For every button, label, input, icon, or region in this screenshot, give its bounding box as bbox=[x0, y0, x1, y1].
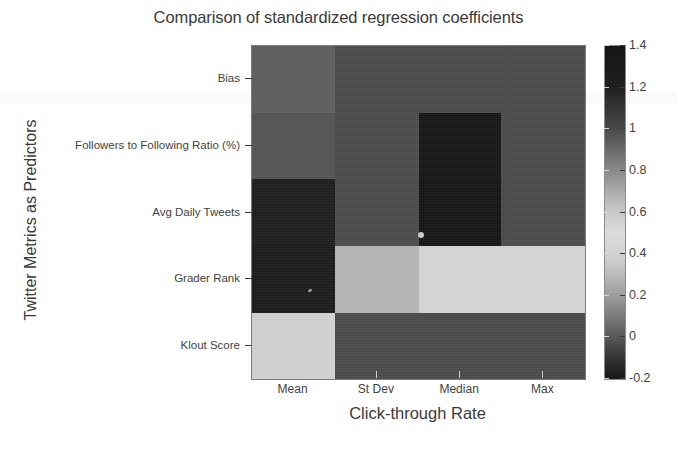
colorbar-tick-label: 1 bbox=[629, 121, 636, 135]
colorbar bbox=[604, 45, 626, 380]
x-tick-label: St Dev bbox=[358, 382, 394, 396]
colorbar-tick-mark bbox=[604, 45, 609, 46]
heatmap-cell bbox=[252, 113, 335, 179]
colorbar-tick-label: 0 bbox=[629, 329, 636, 343]
x-tick-mark bbox=[542, 371, 543, 378]
colorbar-tick-mark bbox=[620, 378, 625, 379]
heatmap-cell bbox=[252, 313, 335, 379]
colorbar-tick-mark bbox=[620, 212, 625, 213]
colorbar-tick-mark bbox=[620, 336, 625, 337]
colorbar-tick-mark bbox=[604, 378, 609, 379]
heatmap-cell bbox=[252, 46, 335, 113]
heatmap-cell bbox=[335, 46, 419, 113]
colorbar-tick-mark bbox=[604, 212, 609, 213]
colorbar-tick-label: 1.4 bbox=[629, 38, 646, 52]
heatmap-cell bbox=[419, 113, 501, 179]
y-tick-mark bbox=[245, 78, 252, 79]
chart-title: Comparison of standardized regression co… bbox=[0, 8, 677, 27]
y-axis-title: Twitter Metrics as Predictors bbox=[22, 50, 40, 390]
heatmap-grid bbox=[252, 46, 585, 379]
plot-area bbox=[251, 45, 586, 380]
colorbar-tick-label: 0.4 bbox=[629, 246, 646, 260]
colorbar-tick-mark bbox=[620, 295, 625, 296]
heatmap-cell bbox=[501, 113, 585, 179]
heatmap-cell bbox=[501, 179, 585, 246]
y-tick-mark bbox=[245, 145, 252, 146]
x-tick-label: Max bbox=[531, 382, 554, 396]
x-tick-mark bbox=[459, 371, 460, 378]
y-tick-mark bbox=[245, 345, 252, 346]
x-tick-mark bbox=[376, 371, 377, 378]
heatmap-cell bbox=[252, 179, 335, 246]
colorbar-tick-mark bbox=[604, 253, 609, 254]
colorbar-gradient bbox=[605, 46, 625, 379]
heatmap-cell bbox=[501, 246, 585, 313]
y-tick-label: Grader Rank bbox=[174, 272, 240, 284]
heatmap-cell bbox=[501, 46, 585, 113]
colorbar-tick-mark bbox=[620, 128, 625, 129]
colorbar-tick-mark bbox=[620, 170, 625, 171]
y-tick-label: Followers to Following Ratio (%) bbox=[75, 139, 240, 151]
colorbar-tick-label: 1.2 bbox=[629, 80, 646, 94]
x-tick-label: Mean bbox=[278, 382, 308, 396]
colorbar-tick-mark bbox=[604, 336, 609, 337]
colorbar-tick-mark bbox=[620, 45, 625, 46]
heatmap-cell bbox=[501, 313, 585, 379]
heatmap-figure: Comparison of standardized regression co… bbox=[0, 0, 677, 459]
y-tick-label: Bias bbox=[218, 72, 240, 84]
heatmap-cell bbox=[335, 313, 419, 379]
colorbar-tick-label: 0.6 bbox=[629, 205, 646, 219]
colorbar-tick-mark bbox=[604, 170, 609, 171]
colorbar-tick-mark bbox=[604, 295, 609, 296]
heatmap-cell bbox=[335, 179, 419, 246]
y-tick-label: Klout Score bbox=[181, 339, 240, 351]
heatmap-cell bbox=[335, 246, 419, 313]
colorbar-tick-mark bbox=[620, 253, 625, 254]
heatmap-cell bbox=[335, 113, 419, 179]
x-tick-label: Median bbox=[439, 382, 478, 396]
colorbar-tick-mark bbox=[620, 87, 625, 88]
heatmap-cell bbox=[419, 179, 501, 246]
heatmap-cell bbox=[419, 313, 501, 379]
colorbar-tick-label: 0.2 bbox=[629, 288, 646, 302]
y-tick-mark bbox=[245, 278, 252, 279]
heatmap-cell bbox=[419, 46, 501, 113]
y-tick-label: Avg Daily Tweets bbox=[152, 206, 240, 218]
colorbar-tick-label: -0.2 bbox=[629, 371, 651, 385]
colorbar-tick-label: 0.8 bbox=[629, 163, 646, 177]
colorbar-tick-mark bbox=[604, 128, 609, 129]
heatmap-cell bbox=[252, 246, 335, 313]
heatmap-cell bbox=[419, 246, 501, 313]
x-tick-mark bbox=[293, 371, 294, 378]
x-axis-title: Click-through Rate bbox=[251, 404, 584, 423]
y-tick-mark bbox=[245, 212, 252, 213]
colorbar-tick-mark bbox=[604, 87, 609, 88]
